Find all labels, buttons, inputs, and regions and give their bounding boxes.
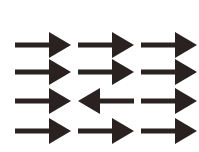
arrow-left-icon: [78, 88, 134, 114]
arrow-right-icon: [141, 59, 197, 85]
arrow-right-icon: [15, 32, 71, 58]
arrow-right-icon: [15, 59, 71, 85]
arrow-right-icon: [15, 88, 71, 114]
arrow-right-icon: [141, 118, 197, 144]
arrow-right-icon: [78, 32, 134, 58]
arrow-right-icon: [141, 32, 197, 58]
arrow-right-icon: [141, 88, 197, 114]
arrow-right-icon: [15, 118, 71, 144]
arrow-right-icon: [78, 118, 134, 144]
arrow-right-icon: [78, 59, 134, 85]
